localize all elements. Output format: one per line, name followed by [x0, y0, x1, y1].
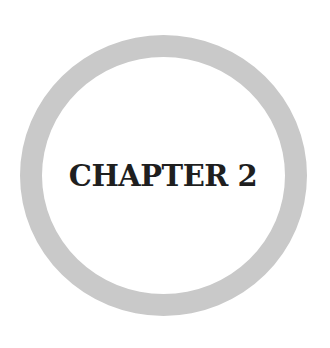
chapter-title: CHAPTER 2 [0, 158, 326, 194]
chapter-badge: CHAPTER 2 [0, 0, 330, 348]
